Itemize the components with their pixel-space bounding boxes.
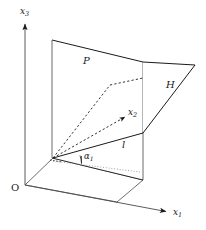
axis-label-x1: x1 (173, 208, 182, 218)
angle-alpha1-sub: 1 (90, 155, 94, 162)
axis-label-x1-sub: 1 (178, 211, 182, 219)
plane-h-shape (143, 62, 195, 133)
floor-edge-left (25, 158, 53, 185)
floor-edge-right (117, 180, 143, 202)
axis-label-x2: x2 (128, 108, 137, 118)
plane-h-label: H (166, 80, 175, 90)
plane-p-label: P (83, 56, 90, 66)
figure-root: x3 x1 x2 O P H l α1 (0, 0, 206, 230)
diagram-canvas (0, 0, 206, 230)
floor-edge-front (25, 185, 117, 202)
axis-label-x2-sub: 2 (133, 111, 137, 119)
line-l-label: l (122, 140, 125, 150)
origin-label: O (11, 183, 19, 193)
axis-label-x3: x3 (20, 7, 29, 17)
angle-alpha1-label: α1 (84, 152, 94, 162)
axis-label-x3-sub: 3 (25, 10, 29, 18)
